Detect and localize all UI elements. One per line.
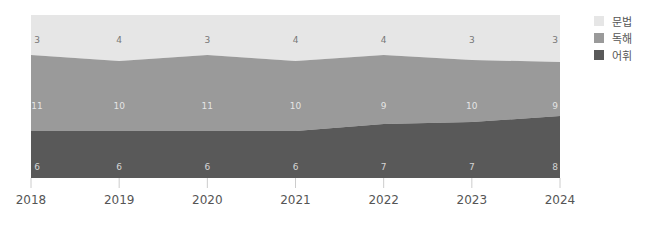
data-label-vocabulary: 8: [552, 162, 558, 172]
data-label-vocabulary: 6: [34, 162, 40, 172]
data-label-reading: 11: [31, 101, 42, 111]
legend-item-reading[interactable]: 독해: [594, 29, 632, 46]
data-label-grammar: 3: [204, 35, 210, 45]
legend-label: 문법: [612, 13, 632, 29]
data-label-vocabulary: 6: [293, 162, 299, 172]
x-axis: 2018201920202021202220232024: [16, 178, 576, 207]
x-tick-label: 2023: [457, 193, 488, 207]
data-label-vocabulary: 7: [469, 162, 475, 172]
data-label-reading: 9: [552, 101, 558, 111]
x-tick-label: 2022: [368, 193, 399, 207]
data-label-vocabulary: 7: [381, 162, 387, 172]
data-label-reading: 11: [202, 101, 213, 111]
legend-label: 어휘: [612, 47, 632, 63]
legend-item-vocabulary[interactable]: 어휘: [594, 46, 632, 63]
data-label-vocabulary: 6: [116, 162, 122, 172]
data-label-reading: 10: [113, 101, 125, 111]
data-label-grammar: 3: [552, 35, 558, 45]
area-reading: [31, 55, 560, 131]
data-label-grammar: 4: [293, 35, 299, 45]
x-tick-label: 2021: [280, 193, 311, 207]
legend-item-grammar[interactable]: 문법: [594, 12, 632, 29]
legend-label: 독해: [612, 30, 632, 46]
x-tick-label: 2024: [545, 193, 576, 207]
legend-swatch-vocabulary: [594, 50, 604, 60]
chart-legend: 문법 독해 어휘: [594, 12, 632, 63]
legend-swatch-grammar: [594, 16, 604, 26]
data-label-vocabulary: 6: [204, 162, 210, 172]
data-label-grammar: 3: [34, 35, 40, 45]
x-tick-label: 2019: [104, 193, 135, 207]
data-label-grammar: 4: [116, 35, 122, 45]
x-tick-label: 2018: [16, 193, 47, 207]
stacked-area-chart: 31164106311641064973107398 2018201920202…: [0, 0, 653, 226]
legend-swatch-reading: [594, 33, 604, 43]
data-label-grammar: 3: [469, 35, 475, 45]
data-label-reading: 10: [466, 101, 478, 111]
x-tick-label: 2020: [192, 193, 223, 207]
data-label-grammar: 4: [381, 35, 387, 45]
data-label-reading: 10: [290, 101, 302, 111]
data-label-reading: 9: [381, 101, 387, 111]
